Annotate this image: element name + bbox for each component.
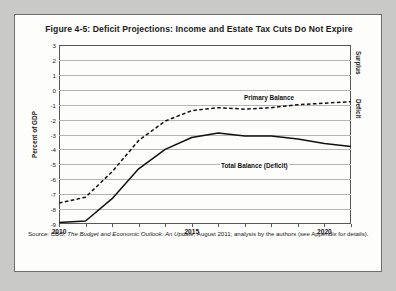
total-balance-line	[59, 133, 351, 222]
x-tick	[324, 224, 325, 227]
y-tick-label: -4	[50, 146, 56, 153]
x-tick	[271, 224, 272, 227]
x-tick	[298, 224, 299, 227]
x-tick	[192, 224, 193, 227]
x-tick	[351, 224, 352, 227]
y-tick-label: -1	[50, 101, 56, 108]
y-tick-label: -6	[50, 176, 56, 183]
primary-balance-label: Primary Balance	[243, 94, 295, 101]
surplus-label: Surplus	[355, 51, 362, 74]
deficit-label: Deficit	[355, 99, 362, 118]
source-note: Source: CBO, The Budget and Economic Out…	[28, 230, 370, 238]
x-tick	[165, 224, 166, 227]
y-tick-label: 0	[53, 86, 56, 93]
x-tick	[218, 224, 219, 227]
y-tick-label: -7	[50, 191, 56, 198]
x-tick	[112, 224, 113, 227]
source-suffix: , August 2011; analysis by the authors (…	[194, 230, 369, 237]
y-tick-label: 3	[53, 42, 56, 49]
y-tick-label: -3	[50, 131, 56, 138]
figure-title: Figure 4-5: Deficit Projections: Income …	[15, 24, 383, 34]
source-prefix: Source: CBO,	[28, 230, 67, 237]
figure-container: Figure 4-5: Deficit Projections: Income …	[14, 14, 382, 272]
primary-balance-line	[59, 102, 351, 203]
y-tick-label: -8	[50, 206, 56, 213]
y-tick-label: -2	[50, 116, 56, 123]
x-tick	[86, 224, 87, 227]
source-publication: The Budget and Economic Outlook: An Upda…	[67, 230, 193, 237]
x-tick	[139, 224, 140, 227]
y-axis-title: Percent of GDP	[29, 45, 41, 224]
x-tick	[245, 224, 246, 227]
series-lines	[59, 45, 351, 224]
plot-area: 3210-1-2-3-4-5-6-7-8-9 201020152020	[59, 45, 351, 224]
x-tick	[59, 224, 60, 227]
y-tick-label: 2	[53, 56, 56, 63]
y-tick-label: -5	[50, 161, 56, 168]
total-balance-label: Total Balance (Deficit)	[220, 162, 289, 169]
y-tick-label: -9	[50, 221, 56, 228]
y-tick-label: 1	[53, 71, 56, 78]
